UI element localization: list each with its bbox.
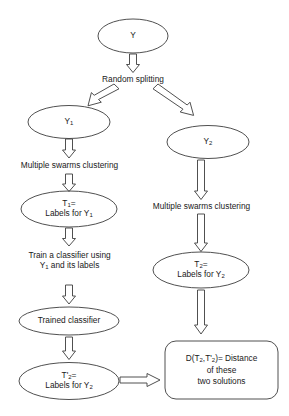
arrow-split-to-y2 <box>153 84 194 115</box>
arrow-y2-to-clustering-right <box>195 160 208 200</box>
arrow-y1-to-clustering-left <box>63 139 76 158</box>
node-ellipse-T2 <box>153 252 249 288</box>
arrow-clustering-to-t2 <box>195 214 208 252</box>
arrow-clustering-to-t1 <box>63 174 76 192</box>
node-ellipse-Y2 <box>167 126 249 159</box>
arrow-trained-classifier-to-t2prime <box>63 337 76 360</box>
arrow-split-to-y1 <box>88 84 119 106</box>
arrow-y-to-random-splitting <box>127 54 140 73</box>
flowchart-diagram: Y Y1 Y2 T1= Labels for Y1 T2= Labels for… <box>0 0 289 416</box>
node-ellipse-Y <box>98 19 168 53</box>
arrow-train-to-trained-classifier <box>63 285 76 304</box>
node-ellipse-T1 <box>21 191 117 227</box>
node-box-distance <box>165 341 278 399</box>
arrow-t2-to-distance <box>195 290 208 334</box>
node-ellipse-trained-classifier <box>19 307 119 335</box>
arrow-t1-to-train <box>63 228 76 246</box>
diagram-shapes-layer <box>0 0 289 416</box>
node-ellipse-Y1 <box>28 106 110 139</box>
arrow-t2prime-to-distance <box>120 374 160 387</box>
node-ellipse-T2-prime <box>19 363 119 400</box>
